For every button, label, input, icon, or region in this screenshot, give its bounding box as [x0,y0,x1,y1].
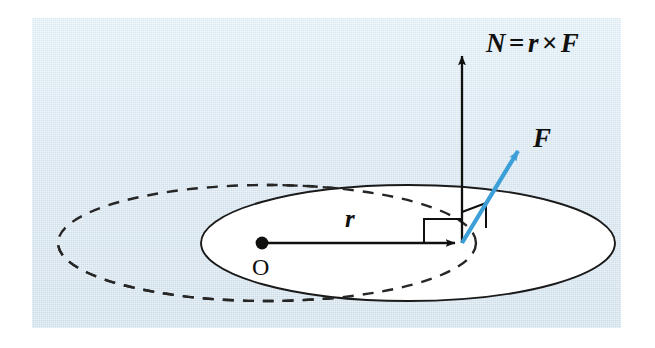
cross-product-icon: × [539,28,561,58]
figure-canvas: N=r×F F r O [0,0,655,348]
position-vector-symbol-in-equation: r [528,28,539,58]
origin-label: O [252,255,269,279]
position-vector-label: r [345,206,355,231]
force-vector-symbol-in-equation: F [561,28,580,58]
equals-sign: = [506,28,528,58]
origin-point-dot [256,237,269,250]
torque-vector-symbol: N [486,28,506,58]
force-vector-label: F [533,125,551,152]
torque-equation-label: N=r×F [486,30,579,57]
